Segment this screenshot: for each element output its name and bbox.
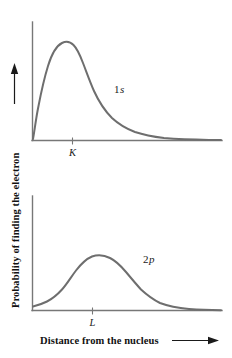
bottom-panel-series-letter: p [148,253,155,265]
top-panel: K 1s [32,22,222,158]
right-arrow-icon [208,337,219,344]
x-axis-title-group: Distance from the nucleus [40,335,219,346]
top-panel-tick-label-k: K [68,147,77,158]
x-axis-title: Distance from the nucleus [40,335,159,346]
y-axis-title: Probability of finding the electron [10,153,21,308]
top-panel-series-number: 1 [114,83,120,95]
up-arrow-icon [11,63,18,74]
bottom-panel-series-label: 2p [143,253,155,265]
top-panel-series-letter: s [120,83,124,95]
top-panel-curve-1s [33,42,221,140]
bottom-panel: L 2p [32,196,222,328]
bottom-panel-series-number: 2 [143,253,149,265]
top-panel-series-label: 1s [114,83,124,95]
figure-container: Probability of finding the electron K 1s [0,0,232,358]
bottom-panel-tick-label-l: L [89,317,96,328]
radial-probability-figure: Probability of finding the electron K 1s [0,0,232,358]
y-axis-title-group: Probability of finding the electron [10,63,21,308]
bottom-panel-curve-2p [33,255,221,310]
